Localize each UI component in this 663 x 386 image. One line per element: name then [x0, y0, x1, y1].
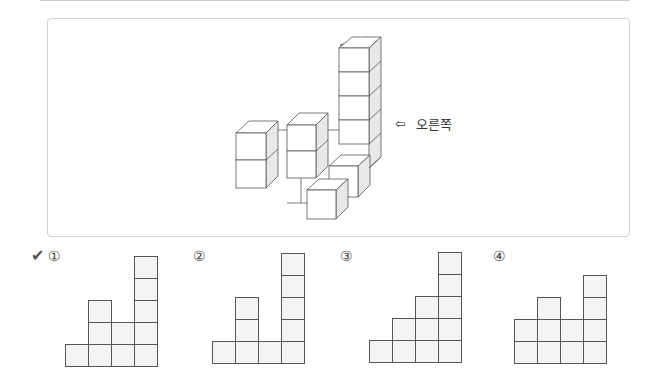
grid-cell	[438, 274, 462, 297]
grid-cell	[438, 318, 462, 341]
grid-cell	[258, 341, 282, 364]
grid-cell	[134, 344, 158, 367]
grid-cell	[212, 341, 236, 364]
grid-cell	[235, 297, 259, 320]
left-arrow-icon: ⇦	[395, 116, 406, 131]
option-number: ①	[48, 248, 61, 264]
grid-cell	[438, 252, 462, 275]
grid-cell	[415, 340, 439, 363]
grid-cell	[369, 340, 393, 363]
view-direction-text: 오른쪽	[416, 114, 452, 133]
grid-cell	[88, 344, 112, 367]
grid-cell	[65, 344, 89, 367]
grid-cell	[134, 278, 158, 301]
option-number: ④	[493, 248, 506, 264]
option-number: ②	[193, 248, 206, 264]
grid-cell	[560, 319, 584, 342]
grid-cell	[415, 318, 439, 341]
grid-cell	[392, 318, 416, 341]
grid-cell	[560, 341, 584, 364]
grid-cell	[134, 322, 158, 345]
grid-cell	[134, 300, 158, 323]
grid-cell	[281, 275, 305, 298]
grid-cell	[438, 296, 462, 319]
grid-cell	[537, 297, 561, 320]
grid-cell	[281, 253, 305, 276]
grid-cell	[514, 319, 538, 342]
view-direction-label: ⇦ 오른쪽	[395, 114, 452, 133]
option-number: ③	[340, 248, 353, 264]
grid-cell	[111, 322, 135, 345]
correct-answer-check-icon: ✔	[31, 246, 44, 265]
grid-cell	[88, 300, 112, 323]
grid-cell	[235, 341, 259, 364]
grid-cell	[281, 319, 305, 342]
grid-cell	[134, 256, 158, 279]
grid-cell	[583, 275, 607, 298]
grid-cell	[88, 322, 112, 345]
grid-cell	[392, 340, 416, 363]
grid-cell	[281, 341, 305, 364]
grid-cell	[281, 297, 305, 320]
grid-cell	[537, 341, 561, 364]
grid-cell	[537, 319, 561, 342]
grid-cell	[111, 344, 135, 367]
grid-cell	[438, 340, 462, 363]
grid-cell	[583, 341, 607, 364]
grid-cell	[415, 296, 439, 319]
grid-cell	[514, 341, 538, 364]
grid-cell	[235, 319, 259, 342]
grid-cell	[583, 297, 607, 320]
grid-cell	[583, 319, 607, 342]
